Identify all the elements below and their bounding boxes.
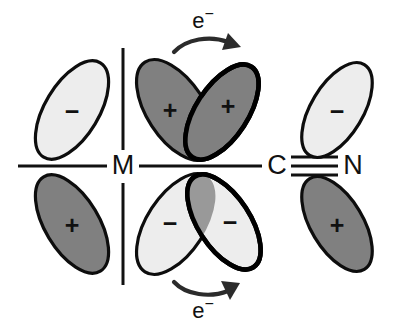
- ligand-pi-lobe-lower-outer: +: [287, 165, 386, 283]
- atom-label-metal: M: [112, 150, 135, 180]
- atom-label-nitrogen: N: [343, 150, 363, 180]
- electron-flow-bottom-label-e: e: [192, 298, 204, 322]
- ligand-pi-lobe-upper-inner-sign: +: [221, 92, 236, 120]
- atom-label-carbon: C: [267, 150, 287, 180]
- orbital-overlap-figure: − + + +: [0, 0, 399, 322]
- ligand-pi-lobe-lower-inner-sign: −: [223, 208, 238, 236]
- ligand-pi-lobe-lower-outer-sign: +: [330, 211, 345, 239]
- electron-flow-bottom-label: e−: [192, 295, 214, 322]
- electron-flow-top-arrow-curve: [174, 39, 228, 52]
- electron-flow-bottom-arrow-curve: [174, 282, 228, 295]
- electron-flow-top-label-e: e: [192, 8, 204, 33]
- ligand-pi-lobe-upper-outer-sign: −: [330, 97, 345, 125]
- electron-flow-bottom: e−: [174, 281, 240, 322]
- metal-lobe-lower-left-sign: +: [65, 211, 80, 239]
- electron-flow-top: e−: [174, 5, 241, 52]
- electron-flow-top-label: e−: [192, 5, 214, 33]
- electron-flow-bottom-label-charge: −: [204, 295, 213, 312]
- carbon-nitrogen-bond: [291, 157, 338, 175]
- ligand-pi-lobe-upper-outer: −: [287, 51, 386, 169]
- figure-canvas: − + + +: [0, 0, 399, 322]
- electron-flow-top-label-charge: −: [204, 5, 213, 22]
- metal-lobe-lower-right-sign: −: [163, 209, 178, 237]
- metal-lobe-lower-left: +: [21, 163, 124, 285]
- metal-lobe-upper-right-sign: +: [163, 96, 178, 124]
- metal-lobe-upper-left: −: [21, 49, 124, 171]
- metal-lobe-upper-left-sign: −: [65, 97, 80, 125]
